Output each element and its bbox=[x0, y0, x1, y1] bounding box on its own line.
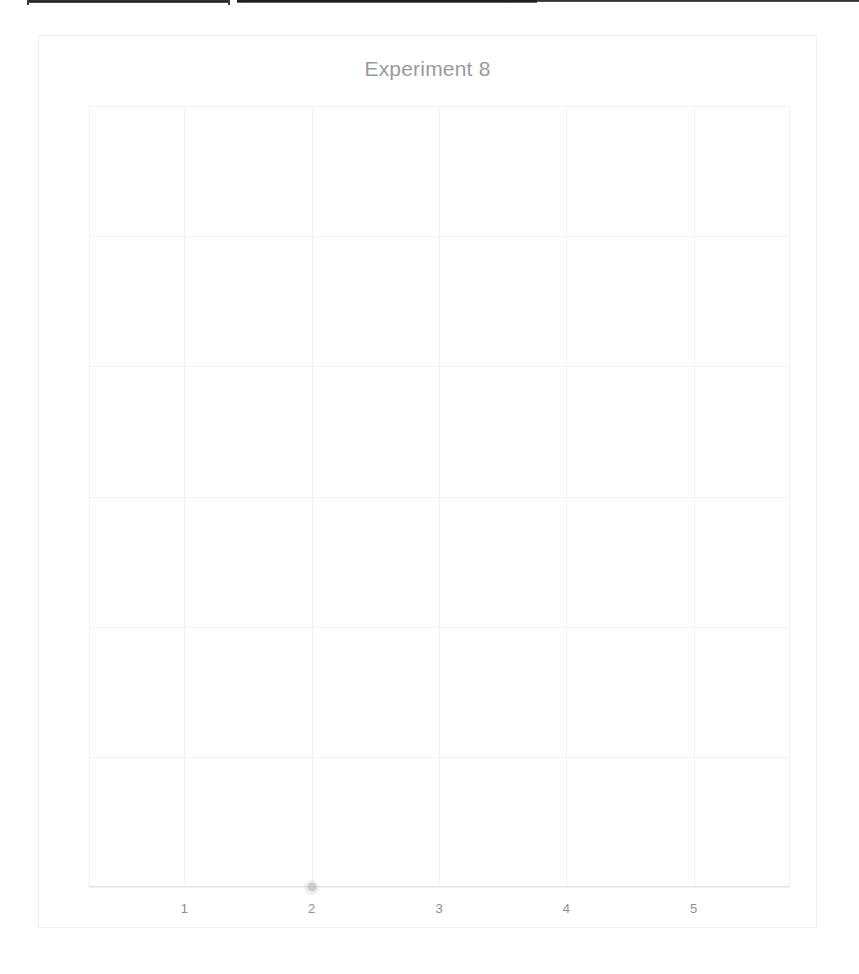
gridline-horizontal bbox=[89, 887, 789, 888]
x-axis-line bbox=[89, 886, 789, 887]
gridline-horizontal bbox=[89, 497, 789, 498]
gridline-horizontal bbox=[89, 236, 789, 237]
gridline-horizontal bbox=[89, 106, 789, 107]
scan-artifact-bar-left-edge-left bbox=[27, 0, 29, 5]
scan-artifact-bar-right-dark bbox=[237, 0, 537, 3]
x-tick-label: 3 bbox=[435, 901, 442, 916]
gridline-vertical bbox=[789, 106, 790, 887]
chart-frame: Experiment 8 12345 bbox=[38, 35, 817, 928]
data-point-marker[interactable] bbox=[307, 883, 316, 892]
scan-artifact-bar-left bbox=[27, 0, 230, 3]
x-tick-label: 2 bbox=[308, 901, 315, 916]
plot-area: 12345 bbox=[89, 106, 789, 887]
x-tick-label: 1 bbox=[181, 901, 188, 916]
gridline-horizontal bbox=[89, 627, 789, 628]
gridline-horizontal bbox=[89, 366, 789, 367]
gridline-horizontal bbox=[89, 757, 789, 758]
x-tick-label: 5 bbox=[690, 901, 697, 916]
x-tick-label: 4 bbox=[563, 901, 570, 916]
scan-artifact-bar-left-edge-right bbox=[228, 0, 230, 5]
chart-title: Experiment 8 bbox=[39, 57, 816, 81]
